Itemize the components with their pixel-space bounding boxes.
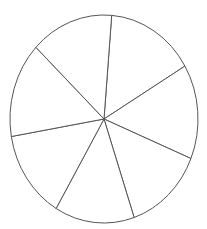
pie-chart (0, 0, 207, 229)
pie-slices (10, 15, 198, 223)
